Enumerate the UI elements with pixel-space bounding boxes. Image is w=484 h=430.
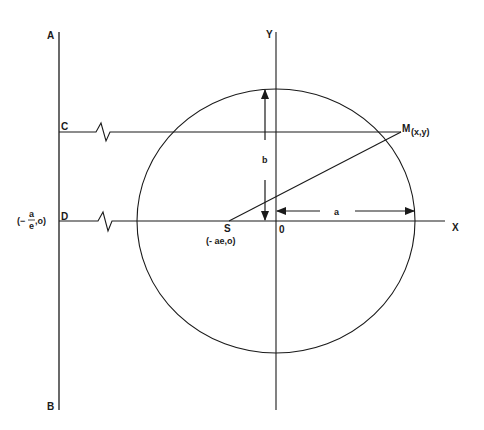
label-focus-coords: (- ae,o) xyxy=(206,236,236,246)
label-semi-minor: b xyxy=(262,155,268,165)
ellipse-diagram: A B C D Y X 0 S (- ae,o) M (x,y) a b (− … xyxy=(0,0,484,430)
focal-radius-sm xyxy=(229,132,401,221)
label-semi-major: a xyxy=(334,207,340,217)
line-c-to-m xyxy=(59,123,401,141)
svg-text:e: e xyxy=(29,221,34,231)
label-d-point: D xyxy=(61,211,68,222)
svg-text:(−: (− xyxy=(17,216,25,226)
label-point-m: M xyxy=(402,123,410,134)
label-focus-s: S xyxy=(224,223,231,234)
label-b-point: B xyxy=(47,401,54,412)
label-point-m-coords: (x,y) xyxy=(411,127,430,137)
label-a-point: A xyxy=(47,30,54,41)
label-x-axis: X xyxy=(452,222,459,233)
label-y-axis: Y xyxy=(266,29,273,40)
label-directrix-coords: (− a e ,o) xyxy=(17,209,46,231)
x-axis-line-d xyxy=(59,212,445,231)
label-c-point: C xyxy=(61,121,68,132)
svg-text:,o): ,o) xyxy=(35,216,46,226)
label-origin: 0 xyxy=(279,224,285,235)
